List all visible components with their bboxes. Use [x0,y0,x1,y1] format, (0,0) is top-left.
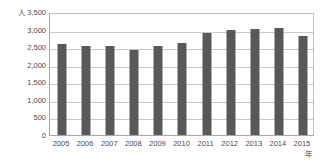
x-tick-label: 2012 [221,139,238,148]
bar-slot [267,14,291,135]
y-tick-label: 3,000 [2,27,46,35]
bar [250,29,259,135]
bar-slot [243,14,267,135]
bar-slot [146,14,170,135]
x-tick-label: 2009 [149,139,166,148]
x-tick-label: 2014 [270,139,287,148]
x-axis-tick-labels: 2005200620072008200920102011201220132014… [49,139,314,151]
bar [274,28,283,135]
y-tick-label: 2,500 [2,44,46,52]
bar [82,46,91,135]
bar [298,36,307,135]
bar [202,33,211,135]
x-tick-label: 2008 [125,139,142,148]
bar [154,46,163,135]
bar-slot [50,14,74,135]
bar-slot [122,14,146,135]
plot-area [49,13,314,136]
bar [226,30,235,135]
bar-slot [170,14,194,135]
bar [106,46,115,135]
x-tick-label: 2007 [101,139,118,148]
x-tick-label: 2006 [77,139,94,148]
x-tick-label: 2013 [245,139,262,148]
bar-chart: 人 05001,0001,5002,0002,5003,0003,500 200… [0,0,331,168]
y-tick-label: 3,500 [2,9,46,17]
bars-group [50,14,313,135]
x-tick-label: 2010 [173,139,190,148]
bar-slot [98,14,122,135]
bar [58,44,67,135]
bar [130,50,139,135]
y-tick-label: 2,000 [2,62,46,70]
x-axis-unit-label: 年 [305,150,312,159]
x-tick-label: 2011 [198,139,214,148]
y-tick-label: 1,000 [2,97,46,105]
bar-slot [291,14,315,135]
x-tick-label: 2015 [294,139,311,148]
y-tick-label: 0 [2,132,46,140]
y-tick-label: 1,500 [2,79,46,87]
y-tick-label: 500 [2,114,46,122]
bar-slot [219,14,243,135]
bar [178,43,187,135]
bar-slot [195,14,219,135]
x-tick-label: 2005 [53,139,70,148]
bar-slot [74,14,98,135]
y-axis-tick-labels: 05001,0001,5002,0002,5003,0003,500 [0,13,46,136]
